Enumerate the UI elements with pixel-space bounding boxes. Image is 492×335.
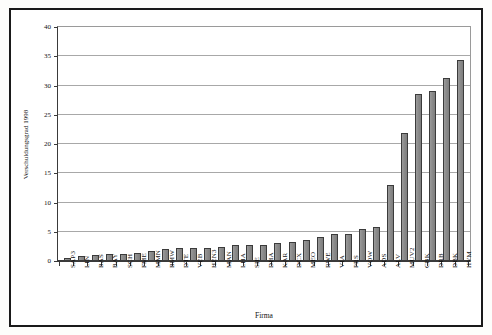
x-label-slot: VEB: [186, 266, 200, 308]
x-label-slot: MEO: [299, 266, 313, 308]
y-tick-label-5: 5: [48, 228, 52, 235]
y-tick-label-40: 40: [44, 24, 51, 31]
x-label-slot: MUV2: [398, 266, 412, 308]
x-label-slot: PRS: [342, 266, 356, 308]
x-label-slot: LIN: [73, 266, 87, 308]
y-tick-label-25: 25: [44, 111, 51, 118]
x-label-slot: DTE: [172, 266, 186, 308]
x-axis-title: Firma: [57, 311, 471, 320]
x-label-slot: KAR: [271, 266, 285, 308]
bar-slot: [341, 27, 355, 261]
bar-slot: [215, 27, 229, 261]
bar-slot: [187, 27, 201, 261]
bar-slot: [173, 27, 187, 261]
x-label-slot: VOW: [356, 266, 370, 308]
bar-slot: [355, 27, 369, 261]
bar-slot: [229, 27, 243, 261]
bar-slot: [369, 27, 383, 261]
y-tick-label-15: 15: [44, 170, 51, 177]
x-tick-label-muv2: MUV2: [409, 247, 416, 268]
x-label-slot: BAY: [101, 266, 115, 308]
bar-slot: [383, 27, 397, 261]
bar-slot: [201, 27, 215, 261]
bar-slot: [257, 27, 271, 261]
bar-slot: [130, 27, 144, 261]
x-label-slot: ALV: [384, 266, 398, 308]
bar-slot: [74, 27, 88, 261]
x-label-slot: MMN: [144, 266, 158, 308]
bar-hvm[interactable]: [457, 60, 464, 261]
x-label-slot: DBK: [441, 266, 455, 308]
x-label-slot: RWE: [314, 266, 328, 308]
scanned-page: Verschuldungsgrad 1998 0510152025303540 …: [0, 0, 492, 335]
x-label-slot: CBK: [413, 266, 427, 308]
bar-cbk[interactable]: [415, 94, 422, 261]
bar-drb[interactable]: [429, 91, 436, 261]
x-label-slot: SCH: [116, 266, 130, 308]
x-label-slot: DCX: [285, 266, 299, 308]
y-tick-label-20: 20: [44, 141, 51, 148]
bar-slot: [102, 27, 116, 261]
x-axis-tick-labels: SAP3LINBASBAYSCHFMEMMNBMWDTEVEBHEN3MANLH…: [57, 266, 471, 308]
bar-slot: [285, 27, 299, 261]
bar-slot: [440, 27, 454, 261]
x-label-slot: SIE: [243, 266, 257, 308]
y-tick-label-30: 30: [44, 82, 51, 89]
bar-slot: [454, 27, 468, 261]
bar-slot: [327, 27, 341, 261]
x-label-slot: BAS: [87, 266, 101, 308]
bar-slot: [426, 27, 440, 261]
bar-slot: [412, 27, 426, 261]
bar-slot: [88, 27, 102, 261]
bar-muv2[interactable]: [401, 133, 408, 261]
bar-alv[interactable]: [387, 185, 394, 261]
bar-slot: [158, 27, 172, 261]
bar-dbk[interactable]: [443, 78, 450, 261]
x-label-slot: LHA: [229, 266, 243, 308]
plot-area: 0510152025303540: [57, 26, 471, 262]
bar-slot: [299, 27, 313, 261]
bar-series: [58, 27, 470, 261]
x-label-slot: BMW: [158, 266, 172, 308]
y-tick-label-0: 0: [48, 258, 52, 265]
y-axis-title-label: Verschuldungsgrad 1998: [24, 109, 31, 178]
bar-chart: Verschuldungsgrad 1998 0510152025303540 …: [9, 8, 483, 327]
bar-slot: [398, 27, 412, 261]
bar-slot: [144, 27, 158, 261]
y-axis-title: Verschuldungsgrad 1998: [21, 26, 33, 262]
x-label-slot: ADS: [370, 266, 384, 308]
x-label-slot: FME: [130, 266, 144, 308]
bar-slot: [271, 27, 285, 261]
x-tick-label-hvm: HVM: [466, 251, 473, 268]
x-label-slot: DRB: [427, 266, 441, 308]
x-label-slot: SAP3: [59, 266, 73, 308]
bar-slot: [60, 27, 74, 261]
bar-slot: [313, 27, 327, 261]
y-tick-label-35: 35: [44, 53, 51, 60]
x-label-slot: DHA: [257, 266, 271, 308]
x-label-slot: VIA: [328, 266, 342, 308]
bar-slot: [116, 27, 130, 261]
x-label-slot: HVM: [455, 266, 469, 308]
bar-slot: [243, 27, 257, 261]
y-tick-label-10: 10: [44, 199, 51, 206]
x-label-slot: MAN: [215, 266, 229, 308]
x-label-slot: HEN3: [200, 266, 214, 308]
